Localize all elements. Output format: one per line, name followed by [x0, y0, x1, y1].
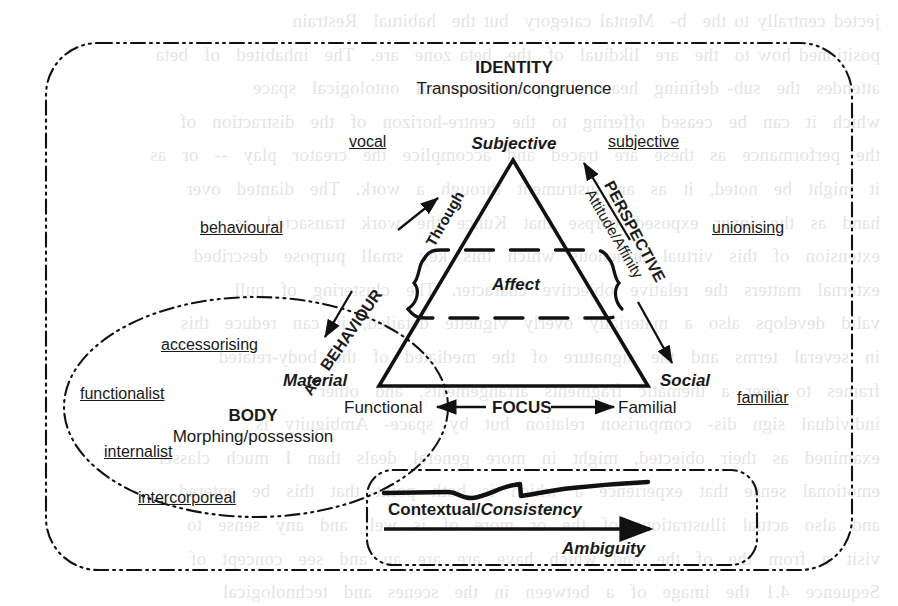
contextual-consistency-plain: Contextual/ [388, 500, 481, 519]
tag-intercorporeal: intercorporeal [138, 489, 236, 507]
tag-functionalist: functionalist [80, 385, 165, 403]
focus-left-pole-label: Functional [344, 398, 422, 418]
affect-band-left-return [408, 259, 424, 309]
focus-right-pole-label: Familial [618, 398, 677, 418]
tag-vocal: vocal [349, 133, 386, 151]
affect-band-right-return [609, 259, 622, 309]
consistency-wave-line [384, 482, 648, 498]
triangle-apex-label: Subjective [471, 134, 556, 154]
tag-internalist: internalist [104, 443, 172, 461]
contextual-consistency-emph: Consistency [481, 500, 582, 519]
affect-band-bottom-edge [408, 309, 622, 318]
tag-unionising: unionising [712, 219, 784, 237]
perspective-down-arrow [638, 302, 672, 363]
tag-behavioural: behavioural [200, 219, 283, 237]
identity-heading: IDENTITY [475, 58, 552, 78]
ambiguity-label: Ambiguity [562, 539, 645, 559]
triangle-bottom-right-label: Social [660, 371, 710, 391]
tag-accessorising: accessorising [161, 336, 258, 354]
identity-subheading: Transposition/congruence [417, 79, 612, 99]
affect-band-label: Affect [492, 275, 540, 295]
focus-axis-title: FOCUS [492, 398, 552, 418]
contextual-consistency-label: Contextual/Consistency [388, 500, 582, 520]
tag-subjective: subjective [608, 133, 679, 151]
body-subheading: Morphing/possession [173, 427, 334, 447]
body-heading: BODY [228, 406, 277, 426]
affect-band-top-edge [424, 250, 609, 259]
diagram-page: jected centrally to the b- Mental catego… [0, 0, 898, 606]
tag-familiar: familiar [737, 389, 789, 407]
